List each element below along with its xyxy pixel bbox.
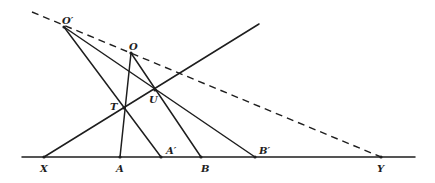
line-oprime-aprime (64, 27, 161, 157)
label-bprime: B′ (258, 145, 270, 156)
point-u (153, 88, 156, 91)
dashed-line-oprime-o-y (32, 12, 381, 157)
point-a (118, 155, 121, 158)
point-x (42, 155, 45, 158)
label-u: U (149, 94, 159, 105)
point-y (379, 155, 382, 158)
point-t (122, 106, 125, 109)
label-x: X (39, 163, 49, 174)
label-y: Y (377, 163, 385, 174)
label-aprime: A′ (165, 145, 177, 156)
label-a: A (115, 163, 124, 174)
point-bprime (253, 155, 256, 158)
label-o: O (129, 41, 138, 52)
label-b: B (200, 163, 209, 174)
line-o-b (131, 53, 201, 157)
label-oprime: O′ (62, 15, 74, 26)
geometric-diagram: O′ O T U X A A′ B B′ Y (0, 0, 435, 183)
point-b (199, 155, 202, 158)
label-t: T (110, 101, 119, 112)
point-aprime (159, 155, 162, 158)
